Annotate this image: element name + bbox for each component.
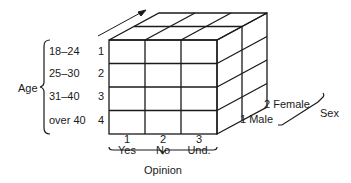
age-level-code: 2 xyxy=(98,67,104,79)
age-level-label: over 40 xyxy=(49,114,86,126)
sex-axis-title: Sex xyxy=(320,107,339,119)
age-level-label: 18–24 xyxy=(49,45,80,57)
age-level-label: 25–30 xyxy=(49,67,80,79)
opinion-level-label: No xyxy=(156,144,170,156)
age-level-code: 4 xyxy=(98,114,104,126)
opinion-level-label: Und. xyxy=(187,144,210,156)
sex-level-label: 1 Male xyxy=(240,113,273,125)
age-level-code: 3 xyxy=(98,90,104,102)
age-axis-title: Age xyxy=(18,82,38,94)
age-level-code: 1 xyxy=(98,45,104,57)
opinion-level-label: Yes xyxy=(118,144,136,156)
sex-level-label: 2 Female xyxy=(264,98,310,110)
opinion-axis-title: Opinion xyxy=(144,164,182,176)
age-level-label: 31–40 xyxy=(49,90,80,102)
depth-arrow-icon xyxy=(98,10,146,36)
